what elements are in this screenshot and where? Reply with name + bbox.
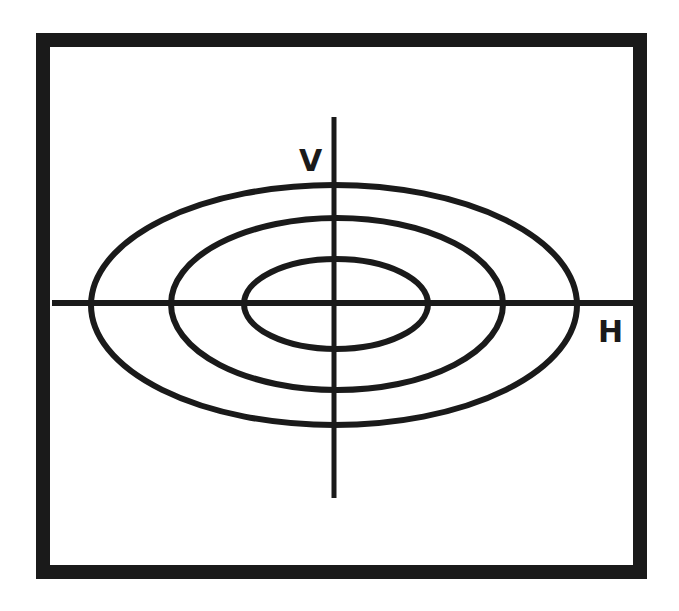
ellipse-diagram: V H: [0, 0, 679, 611]
vertical-axis-label: V: [299, 143, 323, 178]
horizontal-axis-label: H: [598, 314, 623, 349]
